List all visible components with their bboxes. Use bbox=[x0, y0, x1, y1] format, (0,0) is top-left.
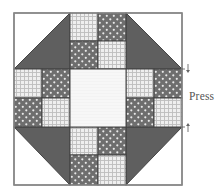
center-square bbox=[70, 69, 126, 127]
patch-bottom-dot-0-1 bbox=[98, 127, 126, 155]
arrow-down-icon bbox=[186, 70, 190, 73]
arrow-up-icon bbox=[186, 123, 190, 126]
press-label: Press bbox=[189, 90, 214, 102]
patch-right-dot-0-1 bbox=[154, 69, 182, 98]
patch-bottom-check-0-0 bbox=[70, 127, 98, 155]
patch-left-check-1-1 bbox=[42, 98, 70, 127]
patch-top-dot-0-1 bbox=[98, 13, 126, 41]
patch-bottom-dot-1-0 bbox=[70, 155, 98, 185]
patch-right-check-1-1 bbox=[154, 98, 182, 127]
quilt-block bbox=[14, 13, 182, 185]
patch-top-check-1-1 bbox=[98, 41, 126, 69]
patch-right-dot-1-0 bbox=[126, 98, 154, 127]
patch-bottom-check-1-1 bbox=[98, 155, 126, 185]
patch-top-dot-1-0 bbox=[70, 41, 98, 69]
patch-left-check-0-0 bbox=[14, 69, 42, 98]
patch-left-dot-0-1 bbox=[42, 69, 70, 98]
patch-left-dot-1-0 bbox=[14, 98, 42, 127]
quilt-block-diagram bbox=[0, 0, 221, 194]
patch-top-check-0-0 bbox=[70, 13, 98, 41]
patch-right-check-0-0 bbox=[126, 69, 154, 98]
